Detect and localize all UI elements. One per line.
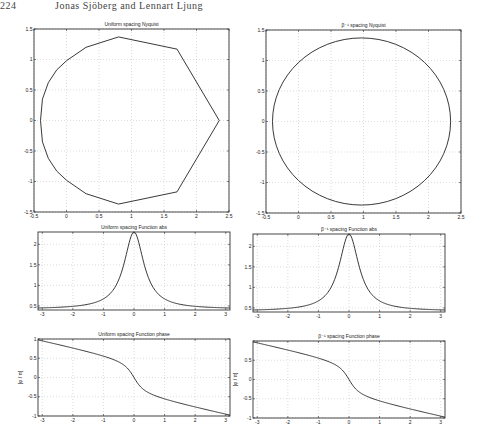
y-tick-label: 2 bbox=[249, 243, 252, 249]
x-tick-label: 2 bbox=[427, 214, 430, 220]
x-tick-label: -1 bbox=[316, 313, 321, 319]
x-tick-label: 2 bbox=[409, 313, 412, 319]
x-tick-label: -3 bbox=[40, 311, 45, 317]
x-tick-label: 1 bbox=[362, 214, 365, 220]
x-tick-label: 1 bbox=[130, 213, 133, 219]
x-tick-label: 3 bbox=[439, 419, 442, 425]
x-tick-label: 2 bbox=[194, 311, 197, 317]
x-tick-label: 3 bbox=[224, 311, 227, 317]
y-tick-label: -1.5 bbox=[24, 209, 33, 215]
nyq_u-plot: -0.500.511.522.5-1.5-1-0.500.511.5Unifor… bbox=[24, 21, 233, 219]
y-tick-label: 1 bbox=[34, 336, 37, 342]
x-tick-label: 2 bbox=[195, 213, 198, 219]
y-tick-label: 1 bbox=[249, 284, 252, 290]
x-tick-label: 1 bbox=[163, 417, 166, 423]
x-tick-label: 0 bbox=[297, 214, 300, 220]
x-tick-label: 1.5 bbox=[393, 214, 400, 220]
nyq_b-plot: -0.500.511.522.5-1.5-1-0.500.511.5β⁻¹ sp… bbox=[256, 22, 465, 220]
x-tick-label: 0.5 bbox=[96, 213, 103, 219]
x-tick-label: 2.5 bbox=[226, 213, 233, 219]
x-tick-label: -3 bbox=[255, 419, 260, 425]
x-tick-label: -2 bbox=[71, 311, 76, 317]
x-tick-label: 2 bbox=[409, 419, 412, 425]
abs-curve bbox=[38, 232, 230, 308]
y-tick-label: 1.5 bbox=[258, 27, 265, 33]
y-tick-label: 0.5 bbox=[30, 355, 37, 361]
y-tick-label: 1 bbox=[262, 57, 265, 63]
abs_u-plot: -3-2-101230.511.52Uniform spacing Functi… bbox=[30, 224, 230, 317]
x-tick-label: -1 bbox=[316, 419, 321, 425]
y-tick-label: -0.5 bbox=[28, 393, 37, 399]
x-tick-label: -3 bbox=[255, 313, 260, 319]
y-tick-label: 1 bbox=[34, 282, 37, 288]
x-tick-label: 1 bbox=[378, 419, 381, 425]
figure: -0.500.511.522.5-1.5-1-0.500.511.5Unifor… bbox=[0, 0, 482, 445]
x-tick-label: -2 bbox=[286, 313, 291, 319]
ph_b-plot: -3-2-10123-1-0.500.5β⁻¹ spacing Function… bbox=[232, 333, 445, 425]
x-tick-label: 0 bbox=[133, 311, 136, 317]
x-tick-label: 0 bbox=[348, 419, 351, 425]
y-tick-label: -0.5 bbox=[256, 149, 265, 155]
plot-title: Uniform spacing Function phase bbox=[98, 331, 170, 337]
x-tick-label: 0 bbox=[348, 313, 351, 319]
y-tick-label: -1 bbox=[260, 179, 265, 185]
y-tick-label: 0.5 bbox=[26, 87, 33, 93]
y-tick-label: 0.5 bbox=[245, 357, 252, 363]
x-tick-label: 0 bbox=[65, 213, 68, 219]
y-tick-label: -1 bbox=[32, 413, 37, 419]
ph_u-plot: -3-2-10123-1-0.500.51Uniform spacing Fun… bbox=[17, 331, 230, 423]
y-tick-label: 0.5 bbox=[258, 88, 265, 94]
y-tick-label: 0.5 bbox=[245, 305, 252, 311]
x-tick-label: 2.5 bbox=[458, 214, 465, 220]
y-axis-label: [φ / π] bbox=[232, 372, 238, 386]
x-tick-label: -2 bbox=[286, 419, 291, 425]
plot-title: β⁻¹ spacing Function abs bbox=[321, 226, 378, 232]
x-tick-label: -3 bbox=[40, 417, 45, 423]
x-tick-label: 3 bbox=[439, 313, 442, 319]
plot-title: β⁻¹ spacing Function phase bbox=[318, 333, 380, 339]
x-tick-label: -2 bbox=[71, 417, 76, 423]
y-tick-label: -0.5 bbox=[24, 148, 33, 154]
y-tick-label: -1 bbox=[247, 415, 252, 421]
x-tick-label: 2 bbox=[194, 417, 197, 423]
y-tick-label: 1.5 bbox=[245, 264, 252, 270]
y-tick-label: -0.5 bbox=[243, 395, 252, 401]
y-tick-label: 0.5 bbox=[30, 303, 37, 309]
x-tick-label: 0 bbox=[133, 417, 136, 423]
x-tick-label: -1 bbox=[101, 417, 106, 423]
y-tick-label: 1 bbox=[30, 56, 33, 62]
abs-curve bbox=[253, 234, 445, 310]
y-tick-label: -1.5 bbox=[256, 210, 265, 216]
x-tick-label: 0.5 bbox=[328, 214, 335, 220]
y-tick-label: 1.5 bbox=[26, 26, 33, 32]
y-axis-label: [φ / π] bbox=[17, 370, 23, 384]
x-tick-label: 1 bbox=[163, 311, 166, 317]
y-tick-label: 0 bbox=[262, 118, 265, 124]
x-tick-label: 1.5 bbox=[161, 213, 168, 219]
x-tick-label: 3 bbox=[224, 417, 227, 423]
y-tick-label: 0 bbox=[34, 374, 37, 380]
y-tick-label: 2 bbox=[34, 241, 37, 247]
plot-title: β⁻¹ spacing Nyquist bbox=[341, 22, 386, 28]
y-tick-label: 1.5 bbox=[30, 262, 37, 268]
abs_b-plot: -3-2-101230.511.52β⁻¹ spacing Function a… bbox=[245, 226, 445, 319]
x-tick-label: 1 bbox=[378, 313, 381, 319]
y-tick-label: 0 bbox=[30, 117, 33, 123]
plot-title: Uniform spacing Nyquist bbox=[104, 21, 159, 27]
y-tick-label: -1 bbox=[28, 178, 33, 184]
plot-title: Uniform spacing Function abs bbox=[101, 224, 168, 230]
x-tick-label: -1 bbox=[101, 311, 106, 317]
y-tick-label: 0 bbox=[249, 376, 252, 382]
